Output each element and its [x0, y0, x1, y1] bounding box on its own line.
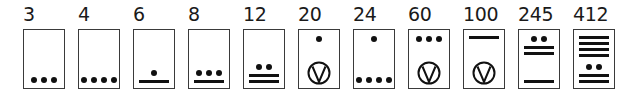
dot-glyph [366, 77, 372, 83]
numeral-value-label: 24 [353, 3, 377, 25]
dot-glyph [371, 36, 377, 42]
dot-glyph [81, 77, 87, 83]
bar-glyph [249, 74, 279, 77]
bar-glyph [524, 46, 554, 49]
numeral-card-box [353, 29, 395, 89]
numeral-card-box [408, 29, 450, 89]
dot-glyph [356, 77, 362, 83]
numeral-card-box [243, 29, 285, 89]
bar-glyph [249, 80, 279, 83]
dot-glyph [416, 36, 422, 42]
dot-glyph [41, 77, 47, 83]
numeral-value-label: 3 [23, 3, 35, 25]
bar-glyph [524, 80, 554, 83]
numeral-card-60: 60 [408, 0, 458, 96]
numeral-value-label: 100 [463, 3, 498, 25]
numeral-card-box [518, 29, 560, 89]
dot-glyph [266, 64, 272, 70]
numeral-card-box [188, 29, 230, 89]
dot-glyph [206, 70, 212, 76]
dot-glyph [31, 77, 37, 83]
numeral-card-412: 412 [573, 0, 623, 96]
numeral-card-100: 100 [463, 0, 513, 96]
shell-zero-icon [417, 61, 441, 85]
numeral-value-label: 412 [573, 3, 608, 25]
shell-zero-icon [307, 61, 331, 85]
dot-glyph [101, 77, 107, 83]
dot-glyph [386, 77, 392, 83]
dot-glyph [596, 64, 602, 70]
dot-glyph [316, 36, 322, 42]
numeral-card-6: 6 [133, 0, 183, 96]
numeral-card-24: 24 [353, 0, 403, 96]
numeral-value-label: 12 [243, 3, 267, 25]
numeral-card-8: 8 [188, 0, 238, 96]
numeral-card-box [78, 29, 120, 89]
numeral-card-box [23, 29, 65, 89]
bar-glyph [579, 74, 609, 77]
bar-glyph [579, 36, 609, 39]
dot-glyph [111, 77, 117, 83]
dot-glyph [376, 77, 382, 83]
dot-glyph [541, 36, 547, 42]
numeral-value-label: 20 [298, 3, 322, 25]
bar-glyph [139, 80, 169, 83]
numeral-value-label: 6 [133, 3, 145, 25]
bar-glyph [194, 80, 224, 83]
dot-glyph [51, 77, 57, 83]
numeral-card-box [133, 29, 175, 89]
dot-glyph [586, 64, 592, 70]
dot-glyph [216, 70, 222, 76]
numeral-card-20: 20 [298, 0, 348, 96]
shell-zero-icon [472, 61, 496, 85]
numeral-value-label: 60 [408, 3, 432, 25]
numeral-card-box [573, 29, 615, 89]
numeral-card-box [463, 29, 505, 89]
numeral-card-12: 12 [243, 0, 293, 96]
dot-glyph [196, 70, 202, 76]
bar-glyph [579, 54, 609, 57]
dot-glyph [151, 70, 157, 76]
bar-glyph [579, 48, 609, 51]
numeral-value-label: 4 [78, 3, 90, 25]
bar-glyph [524, 52, 554, 55]
numeral-card-245: 245 [518, 0, 568, 96]
bar-glyph [579, 80, 609, 83]
dot-glyph [91, 77, 97, 83]
dot-glyph [531, 36, 537, 42]
dot-glyph [436, 36, 442, 42]
dot-glyph [256, 64, 262, 70]
numeral-value-label: 245 [518, 3, 553, 25]
numeral-card-box [298, 29, 340, 89]
numeral-card-3: 3 [23, 0, 73, 96]
numeral-card-4: 4 [78, 0, 128, 96]
bar-glyph [469, 36, 499, 39]
numeral-value-label: 8 [188, 3, 200, 25]
dot-glyph [426, 36, 432, 42]
bar-glyph [579, 42, 609, 45]
